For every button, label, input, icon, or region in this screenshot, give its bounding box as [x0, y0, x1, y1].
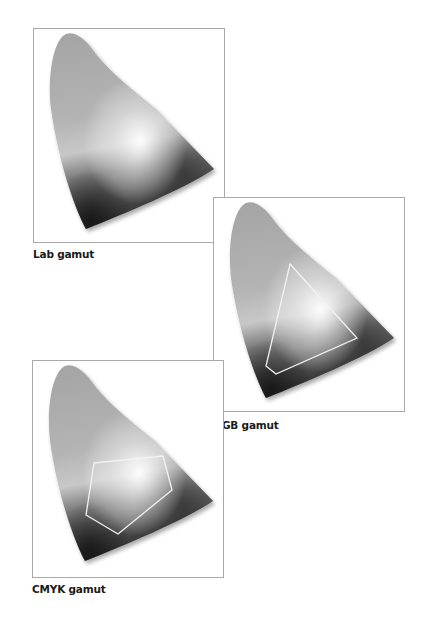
cmyk-gamut-diagram	[33, 361, 223, 574]
cmyk-gamut-label: CMYK gamut	[32, 583, 106, 595]
rgb-gamut-diagram	[214, 198, 404, 411]
lab-gamut-label: Lab gamut	[33, 248, 94, 260]
lab-gamut-diagram	[34, 29, 224, 242]
cmyk-gamut-panel	[32, 360, 224, 578]
rgb-gamut-panel	[213, 197, 405, 412]
lab-gamut-panel	[33, 28, 225, 243]
